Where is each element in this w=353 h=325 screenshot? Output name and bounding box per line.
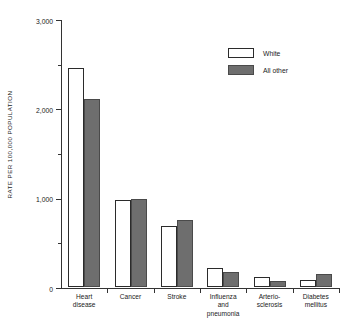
bar-white <box>68 68 84 287</box>
bar-all-other <box>177 220 193 287</box>
bar-group <box>115 20 147 288</box>
x-axis-category-label: Arterio- sclerosis <box>246 293 292 310</box>
legend-swatch-white <box>228 48 254 58</box>
y-axis-tick-major: 1,000 <box>56 199 62 200</box>
bar-group <box>68 20 100 288</box>
y-axis-title-text: RATE PER 100,000 POPULATION <box>7 90 14 198</box>
x-axis-category-label: Stroke <box>154 293 200 301</box>
legend-item: White <box>228 47 320 59</box>
x-axis-category-label: Diabetes mellitus <box>293 293 339 310</box>
bar-all-other <box>131 199 147 287</box>
legend-label: White <box>263 50 280 57</box>
x-axis-category-label: Cancer <box>107 293 153 301</box>
bar-all-other <box>223 272 239 287</box>
bar-all-other <box>316 274 332 287</box>
bar-chart: RATE PER 100,000 POPULATION 01,0002,0003… <box>0 0 353 325</box>
x-axis-tick <box>339 288 340 293</box>
y-axis-tick-label: 0 <box>49 285 53 292</box>
bar-all-other <box>84 99 100 287</box>
bar-white <box>207 268 223 287</box>
legend-item: All other <box>228 64 320 76</box>
y-axis-tick-minor <box>58 243 62 244</box>
bar-white <box>161 226 177 287</box>
x-axis-category-label: Influenza and pneumonia <box>200 293 246 318</box>
bar-white <box>300 280 316 287</box>
bar-group <box>161 20 193 288</box>
y-axis-tick-label: 3,000 <box>36 17 53 24</box>
bar-white <box>254 277 270 287</box>
legend-swatch-other <box>228 65 254 75</box>
y-axis-tick-minor <box>58 154 62 155</box>
x-axis-category-label: Heart disease <box>61 293 107 310</box>
legend-label: All other <box>263 67 288 74</box>
y-axis-tick-major: 2,000 <box>56 109 62 110</box>
bar-white <box>115 200 131 287</box>
y-axis-tick-major: 3,000 <box>56 20 62 21</box>
y-axis-tick-major: 0 <box>56 288 62 289</box>
y-axis-title: RATE PER 100,000 POPULATION <box>0 0 20 288</box>
bar-all-other <box>270 281 286 287</box>
y-axis-tick-label: 1,000 <box>36 196 53 203</box>
chart-legend: WhiteAll other <box>228 47 320 81</box>
y-axis-tick-minor <box>58 65 62 66</box>
y-axis-tick-label: 2,000 <box>36 106 53 113</box>
